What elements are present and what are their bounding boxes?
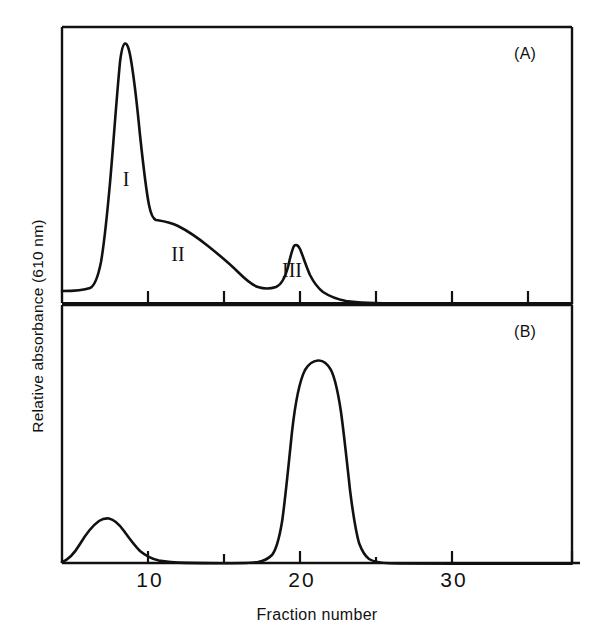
curve-panel-b	[62, 360, 572, 563]
chart-canvas	[0, 0, 601, 643]
panel-b-frame	[62, 305, 580, 563]
panel-b-xticks	[148, 551, 572, 563]
peak-label-two: II	[171, 243, 184, 266]
y-axis-title: Relative absorbance (610 nm)	[29, 116, 47, 536]
peak-label-three: III	[282, 259, 302, 282]
peak-label-one: I	[123, 168, 130, 191]
xtick-label-20: 20	[288, 568, 315, 592]
xtick-label-10: 10	[136, 568, 163, 592]
xtick-label-30: 30	[440, 568, 467, 592]
x-axis-title: Fraction number	[62, 606, 572, 624]
curve-panel-a	[62, 43, 572, 303]
panel-a-frame	[62, 27, 572, 303]
panel-b-tag: (B)	[514, 323, 536, 341]
panel-a-tag: (A)	[514, 45, 536, 63]
panel-a-xticks	[148, 291, 528, 303]
chromatogram-figure: Relative absorbance (610 nm)	[0, 0, 601, 643]
